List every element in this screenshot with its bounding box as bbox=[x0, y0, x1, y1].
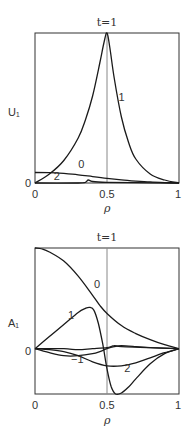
y-axis-label: A₁ bbox=[8, 317, 19, 329]
chart-title: t=1 bbox=[97, 231, 118, 244]
x-axis-label: ρ bbox=[103, 414, 111, 427]
curve-label: 2 bbox=[54, 170, 60, 182]
y-tick-label: 0 bbox=[25, 177, 31, 189]
x-tick-label: 0.5 bbox=[99, 188, 114, 200]
x-tick-label: 1 bbox=[175, 188, 181, 200]
y-tick-label: 0 bbox=[25, 345, 31, 357]
panel-a1: t=1 A₁ 0 0 0.5 1 ρ 01−12 bbox=[8, 231, 181, 427]
x-tick-label: 1 bbox=[175, 399, 181, 411]
y-axis-label: U₁ bbox=[8, 106, 20, 118]
curve-label: 0 bbox=[94, 278, 100, 290]
chart-title: t=1 bbox=[97, 16, 118, 29]
x-tick-label: 0.5 bbox=[99, 399, 114, 411]
curve-label: 1 bbox=[119, 91, 125, 103]
x-tick-label: 0 bbox=[32, 188, 38, 200]
x-tick-label: 0 bbox=[32, 399, 38, 411]
curve-label: 2 bbox=[124, 362, 130, 374]
annotation-layer: 102 bbox=[54, 91, 125, 183]
curve-label: −1 bbox=[71, 353, 84, 365]
panel-u1: t=1 U₁ 0 0 0.5 1 ρ 102 bbox=[8, 16, 181, 215]
chart-figure: t=1 U₁ 0 0 0.5 1 ρ 102 t=1 A₁ 0 0 0.5 1 … bbox=[0, 0, 191, 437]
x-axis-label: ρ bbox=[103, 202, 111, 215]
curve-label: 0 bbox=[78, 158, 84, 170]
curve-label: 1 bbox=[68, 309, 74, 321]
